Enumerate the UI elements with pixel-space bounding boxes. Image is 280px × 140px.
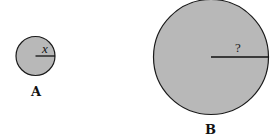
- circle-a-radius-label: x: [41, 41, 48, 56]
- circle-a-group: x A: [16, 37, 55, 100]
- circle-b-radius-label: ?: [235, 40, 241, 55]
- circle-b-label: B: [205, 122, 216, 137]
- circle-a-label: A: [30, 84, 42, 99]
- circles-diagram: x A ? B: [0, 0, 280, 140]
- circle-b-group: ? B: [154, 0, 269, 137]
